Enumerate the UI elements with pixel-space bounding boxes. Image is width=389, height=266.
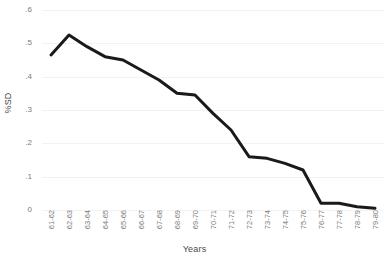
x-axis-tick-label: 64-65 — [101, 210, 110, 229]
x-axis-tick-label: 68-69 — [173, 210, 182, 229]
line-chart: %SD 0.1.2.3.4.5.6 61-6262-6363-6464-6565… — [0, 0, 389, 266]
x-axis-tick-label: 61-62 — [47, 210, 56, 229]
x-axis-tick-label: 65-66 — [119, 210, 128, 229]
x-axis-tick-label: 66-67 — [137, 210, 146, 229]
x-axis-tick-label: 74-75 — [281, 210, 290, 229]
series-line — [51, 35, 375, 208]
x-axis-tick-label: 67-68 — [155, 210, 164, 229]
x-axis-tick-label: 63-64 — [83, 210, 92, 229]
y-axis-tick-label: .3 — [12, 105, 32, 114]
x-axis-tick-label: 75-76 — [299, 210, 308, 229]
y-axis-tick-label: .5 — [12, 38, 32, 47]
x-axis-tick-label: 71-72 — [227, 210, 236, 229]
y-axis-tick-label: 0 — [12, 205, 32, 214]
y-axis-tick-label: .1 — [12, 172, 32, 181]
x-axis-tick-label: 73-74 — [263, 210, 272, 229]
y-axis-title: %SD — [3, 81, 13, 125]
y-axis-tick-label: .6 — [12, 5, 32, 14]
x-axis-tick-label: 76-77 — [317, 210, 326, 229]
x-axis-tick-label: 78-79 — [353, 210, 362, 229]
x-axis-tick-label: 77-78 — [335, 210, 344, 229]
x-axis-tick-label: 79-80 — [371, 210, 380, 229]
y-axis-tick-label: .2 — [12, 138, 32, 147]
series-line-group — [42, 10, 384, 210]
y-axis-tick-label: .4 — [12, 72, 32, 81]
x-axis-tick-label: 72-73 — [245, 210, 254, 229]
x-axis-tick-labels: 61-6262-6363-6464-6565-6666-6767-6868-69… — [42, 208, 384, 244]
x-axis-tick-label: 69-70 — [191, 210, 200, 229]
x-axis-title: Years — [0, 244, 389, 254]
x-axis-tick-label: 70-71 — [209, 210, 218, 229]
plot-area: 0.1.2.3.4.5.6 — [42, 10, 384, 210]
x-axis-tick-label: 62-63 — [65, 210, 74, 229]
